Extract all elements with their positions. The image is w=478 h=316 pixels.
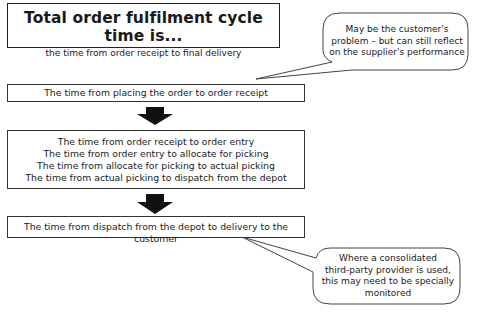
step-box-delivery: The time from dispatch from the depot to…: [7, 216, 305, 238]
step-line: The time from placing the order to order…: [8, 87, 304, 99]
callout-customer: May be the customer's problem – but can …: [326, 24, 468, 59]
callout-third-party: Where a consolidated third-party provide…: [318, 253, 458, 299]
callout-line: this may need to be specially: [318, 276, 458, 288]
down-arrow-icon: [137, 107, 173, 125]
step-line: The time from actual picking to dispatch…: [8, 172, 304, 184]
step-line: The time from allocate for picking to ac…: [8, 160, 304, 172]
diagram-subtitle: the time from order receipt to final del…: [8, 48, 279, 58]
callout-line: May be the customer's: [326, 24, 468, 36]
callout-line: Where a consolidated: [318, 253, 458, 265]
callout-line: on the supplier's performance: [326, 47, 468, 59]
callout-line: third-party provider is used,: [318, 265, 458, 277]
step-line: The time from order receipt to order ent…: [8, 136, 304, 148]
callout-line: monitored: [318, 288, 458, 300]
step-line: The time from dispatch from the depot to…: [8, 221, 304, 245]
diagram-title: Total order fulfilment cycle time is...: [8, 9, 279, 45]
step-box-order-processing: The time from order receipt to order ent…: [7, 130, 305, 189]
down-arrow-icon: [137, 194, 173, 214]
step-line: The time from order entry to allocate fo…: [8, 148, 304, 160]
step-box-order-placement: The time from placing the order to order…: [7, 84, 305, 102]
title-box: Total order fulfilment cycle time is... …: [7, 3, 280, 48]
callout-line: problem – but can still reflect: [326, 36, 468, 48]
